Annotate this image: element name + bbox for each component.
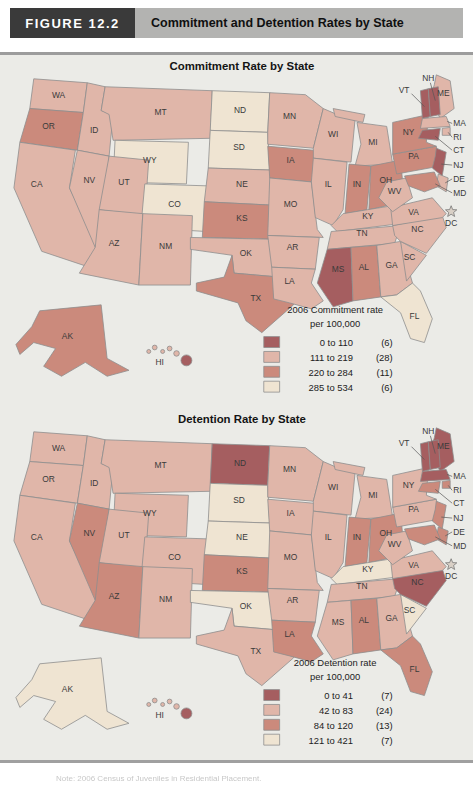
legend-count: (7) (381, 690, 393, 701)
state-label-GA: GA (385, 260, 398, 270)
legend-subtitle: per 100,000 (310, 318, 360, 329)
state-label-MD: MD (453, 541, 466, 551)
state-label-MI: MI (368, 137, 377, 147)
legend-swatch-cat4 (263, 381, 279, 392)
state-label-TN: TN (356, 582, 367, 592)
state-label-WY: WY (142, 508, 156, 518)
hawaii-island (173, 704, 179, 710)
state-label-CO: CO (168, 552, 181, 562)
legend-title: 2006 Detention rate (293, 657, 376, 668)
state-label-NV: NV (83, 175, 95, 185)
legend-range: 220 to 284 (308, 367, 352, 378)
legend-range: 84 to 120 (313, 720, 352, 731)
state-MS (317, 600, 353, 659)
state-label-IA: IA (286, 155, 294, 165)
state-label-DE: DE (453, 527, 465, 537)
state-label-OH: OH (379, 528, 392, 538)
state-OK (190, 237, 281, 277)
state-MS (317, 247, 353, 306)
state-label-NJ: NJ (453, 513, 463, 523)
hawaii-island (167, 699, 172, 704)
legend-swatch-cat2 (263, 351, 279, 362)
hawaii-island (152, 698, 157, 703)
state-label-MS: MS (331, 617, 344, 627)
legend-count: (6) (381, 382, 393, 393)
state-label-VA: VA (408, 560, 419, 570)
state-label-MT: MT (154, 460, 166, 470)
state-label-MN: MN (283, 465, 296, 475)
legend-count: (24) (375, 705, 392, 716)
legend-swatch-cat2 (263, 705, 279, 716)
detention-map-title: Detention Rate by State (178, 413, 306, 425)
hawaii-island (160, 349, 164, 353)
state-RI (442, 127, 450, 135)
legend-swatch-cat1 (263, 337, 279, 348)
state-label-IN: IN (352, 179, 360, 189)
state-label-ID: ID (90, 125, 98, 135)
state-label-IL: IL (324, 532, 331, 542)
hawaii-island (167, 346, 172, 351)
state-label-MT: MT (154, 107, 166, 117)
state-label-NE: NE (236, 532, 248, 542)
state-label-IN: IN (352, 532, 360, 542)
dc-label: DC (445, 218, 457, 228)
state-label-KY: KY (362, 211, 374, 221)
figure-title: Commitment and Detention Rates by State (135, 8, 463, 38)
state-label-HI: HI (155, 710, 163, 720)
legend-range: 111 to 219 (309, 352, 352, 363)
state-label-CT: CT (453, 498, 464, 508)
hawaii-island (146, 349, 150, 353)
legend-range: 0 to 110 (319, 337, 352, 348)
figure-header: FIGURE 12.2 Commitment and Detention Rat… (10, 8, 463, 38)
state-label-WV: WV (387, 186, 401, 196)
commitment-map-title: Commitment Rate by State (169, 60, 314, 72)
state-label-KS: KS (236, 213, 248, 223)
state-label-AL: AL (358, 615, 369, 625)
state-label-RI: RI (453, 132, 461, 142)
leader-line-CT (435, 136, 452, 150)
state-label-OR: OR (42, 121, 55, 131)
source-note-illegible: Note: 2006 Census of Juveniles in Reside… (56, 774, 456, 787)
state-label-UT: UT (118, 530, 129, 540)
state-label-AR: AR (286, 242, 298, 252)
legend-count: (28) (375, 352, 392, 363)
state-label-NE: NE (236, 179, 248, 189)
legend-subtitle: per 100,000 (310, 671, 360, 682)
state-label-NH: NH (422, 73, 434, 83)
state-AL (351, 598, 381, 654)
state-label-PA: PA (408, 504, 419, 514)
state-label-NV: NV (83, 528, 95, 538)
legend-swatch-cat3 (263, 719, 279, 730)
state-label-OH: OH (379, 175, 392, 185)
hawaii-island (173, 351, 179, 357)
state-label-NH: NH (422, 426, 434, 436)
legend-range: 285 to 534 (308, 382, 352, 393)
state-label-VT: VT (398, 438, 409, 448)
state-label-TN: TN (356, 228, 367, 238)
hawaii-island (146, 703, 150, 707)
state-label-LA: LA (284, 276, 295, 286)
state-label-MA: MA (453, 118, 466, 128)
legend-range: 0 to 41 (324, 690, 353, 701)
state-label-ND: ND (233, 458, 245, 468)
state-label-CA: CA (30, 532, 42, 542)
state-label-MA: MA (453, 471, 466, 481)
state-label-VT: VT (398, 85, 409, 95)
state-HI (180, 355, 191, 366)
state-label-ID: ID (90, 478, 98, 488)
state-label-AZ: AZ (108, 238, 119, 248)
dc-star-icon (445, 559, 456, 570)
legend-swatch-cat4 (263, 734, 279, 745)
detention-map: Detention Rate by State WAORCAIDMTWYNVUT… (4, 410, 470, 751)
state-label-NM: NM (159, 594, 172, 604)
state-label-WY: WY (142, 155, 156, 165)
state-label-NC: NC (411, 578, 423, 588)
state-RI (442, 480, 450, 488)
state-label-VA: VA (408, 207, 419, 217)
state-label-AZ: AZ (108, 591, 119, 601)
state-label-NY: NY (402, 127, 414, 137)
state-label-SD: SD (233, 142, 245, 152)
maps-panel: Commitment Rate by State WAORCAIDMTWYNVU… (0, 52, 473, 763)
legend-count: (11) (376, 367, 392, 378)
legend-swatch-cat1 (263, 690, 279, 701)
